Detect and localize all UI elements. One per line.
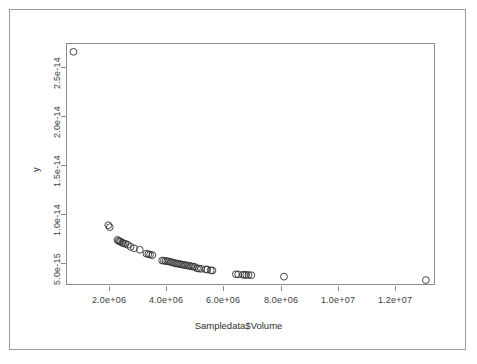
x-tick-label: 1.0e+07	[308, 295, 368, 305]
screenshot-root: 5.0e-151.0e-141.5e-142.0e-142.5e-142.0e+…	[0, 0, 477, 364]
y-tick-label: 5.0e-15	[52, 253, 62, 285]
y-tick-label: 1.0e-14	[52, 204, 62, 236]
y-tick-label: 2.5e-14	[52, 57, 62, 89]
x-tick-label: 6.0e+06	[193, 295, 253, 305]
x-tick-label: 2.0e+06	[79, 295, 139, 305]
x-tick-mark	[395, 286, 396, 291]
x-tick-mark	[223, 286, 224, 291]
x-tick-label: 4.0e+06	[136, 295, 196, 305]
x-axis-title: Sampledata$Volume	[0, 320, 477, 331]
x-tick-mark	[338, 286, 339, 291]
y-axis-title: y	[30, 167, 41, 172]
y-tick-label: 1.5e-14	[52, 155, 62, 187]
x-tick-label: 8.0e+06	[251, 295, 311, 305]
x-tick-mark	[109, 286, 110, 291]
x-tick-mark	[281, 286, 282, 291]
x-tick-mark	[166, 286, 167, 291]
x-tick-label: 1.2e+07	[365, 295, 425, 305]
y-tick-label: 2.0e-14	[52, 106, 62, 138]
plot-area-box	[66, 43, 435, 285]
